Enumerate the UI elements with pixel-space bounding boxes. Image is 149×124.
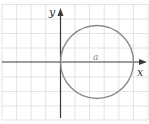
- radius-label: a: [93, 52, 98, 62]
- y-axis-label: y: [48, 6, 56, 19]
- axes: [2, 8, 147, 118]
- x-axis-label: x: [137, 66, 144, 79]
- x-axis-arrow-icon: [139, 59, 147, 65]
- y-axis-arrow-icon: [58, 8, 64, 16]
- circle-diagram: y x a: [0, 0, 149, 124]
